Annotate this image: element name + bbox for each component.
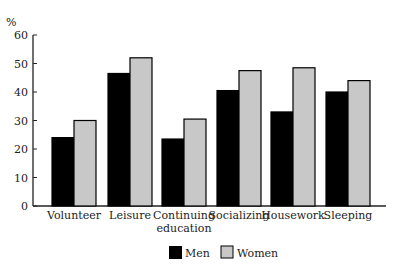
bars	[52, 58, 370, 206]
legend: Men Women	[169, 246, 278, 260]
y-tick-label: 60	[14, 29, 28, 42]
y-axis-label: %	[6, 16, 16, 29]
bar-women	[239, 71, 261, 206]
legend-swatch-men	[169, 246, 182, 259]
y-tick-label: 0	[21, 200, 28, 213]
bar-women	[184, 119, 206, 206]
legend-label-men: Men	[185, 247, 210, 260]
bar-women	[293, 68, 315, 206]
bar-men	[271, 112, 293, 206]
bar-women	[130, 58, 152, 206]
x-tick-label: Volunteer	[46, 209, 102, 222]
y-tick-label: 30	[14, 115, 28, 128]
y-tick-label: 40	[14, 86, 28, 99]
x-tick-label: Continuing	[153, 209, 215, 222]
bar-men	[217, 91, 239, 206]
legend-label-women: Women	[237, 247, 278, 260]
x-tick-label: Sleeping	[324, 209, 373, 222]
y-tick-label: 10	[14, 172, 28, 185]
bar-women	[74, 121, 96, 207]
bar-chart: % 0102030405060 VolunteerLeisureContinui…	[0, 0, 401, 278]
y-tick-label: 50	[14, 58, 28, 71]
bar-men	[326, 92, 348, 206]
bar-men	[108, 73, 130, 206]
legend-swatch-women	[221, 246, 233, 258]
bar-men	[52, 138, 74, 206]
x-tick-label: Housework	[261, 209, 325, 222]
y-tick-label: 20	[14, 143, 28, 156]
bar-men	[162, 139, 184, 206]
x-tick-label: education	[157, 222, 212, 235]
x-axis-labels: VolunteerLeisureContinuingeducationSocia…	[46, 209, 372, 235]
bar-women	[348, 81, 370, 206]
x-tick-label: Leisure	[109, 209, 151, 222]
